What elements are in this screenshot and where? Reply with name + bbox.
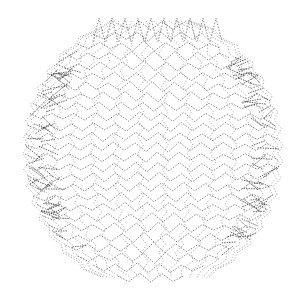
- zigzag-stroke: [46, 196, 56, 203]
- dotted-sphere-drawing: [0, 0, 306, 288]
- zigzag-stroke: [238, 61, 249, 66]
- zigzag-stroke: [258, 168, 276, 178]
- zigzag-stroke: [263, 166, 279, 178]
- zigzag-stroke: [59, 51, 78, 62]
- zigzag-stroke: [48, 222, 257, 233]
- zigzag-stroke: [93, 263, 203, 273]
- zigzag-stroke: [258, 106, 271, 113]
- zigzag-stroke: [42, 89, 50, 91]
- zigzag-stroke: [49, 208, 64, 214]
- zigzag-stroke: [27, 172, 269, 182]
- zigzag-stroke: [138, 21, 151, 278]
- zigzag-stroke: [242, 200, 260, 207]
- zigzag-stroke: [251, 118, 265, 127]
- zigzag-stroke: [241, 180, 262, 185]
- zigzag-stroke: [39, 146, 59, 155]
- zigzag-stroke: [249, 83, 257, 85]
- zigzag-stroke: [78, 41, 221, 51]
- zigzag-stroke: [222, 242, 236, 243]
- figure-canvas: [0, 0, 306, 288]
- zigzag-stroke: [30, 182, 272, 191]
- zigzag-stroke: [234, 76, 244, 80]
- zigzag-stroke: [42, 213, 262, 223]
- zigzag-stroke: [41, 139, 56, 141]
- zigzag-stroke: [30, 112, 272, 122]
- zigzag-stroke: [56, 61, 243, 71]
- zigzag-stroke: [210, 18, 222, 41]
- zigzag-stroke: [239, 199, 257, 209]
- zigzag-stroke: [66, 51, 231, 61]
- zigzag-stroke: [38, 167, 58, 169]
- zigzag-stroke: [175, 21, 237, 278]
- zigzag-stroke: [185, 21, 269, 278]
- zigzag-stroke: [244, 102, 266, 105]
- zigzag-stroke: [66, 243, 231, 254]
- zigzag-stroke: [25, 152, 278, 162]
- zigzag-stroke: [243, 104, 257, 108]
- zigzag-stroke: [118, 273, 184, 282]
- zigzag-stroke: [48, 72, 257, 82]
- zigzag-stroke: [33, 102, 264, 111]
- zigzag-stroke: [262, 97, 270, 101]
- zigzag-stroke: [52, 218, 70, 219]
- zigzag-stroke: [65, 68, 81, 72]
- zigzag-stroke: [33, 192, 264, 202]
- zigzag-stroke: [37, 202, 268, 211]
- zigzag-stroke: [26, 132, 279, 141]
- zigzag-stroke: [23, 21, 111, 278]
- zigzag-stroke: [197, 18, 209, 41]
- zigzag-stroke: [52, 231, 63, 239]
- zigzag-stroke: [248, 88, 263, 93]
- zigzag-stroke: [37, 91, 268, 102]
- zigzag-stroke: [252, 163, 262, 169]
- zigzag-stroke: [46, 177, 62, 186]
- zigzag-stroke: [31, 100, 46, 115]
- zigzag-stroke: [243, 199, 260, 212]
- zigzag-stroke: [56, 233, 243, 244]
- zigzag-stroke: [251, 141, 265, 146]
- zigzag-stroke: [234, 57, 243, 61]
- zigzag-stroke: [264, 108, 275, 118]
- zigzag-stroke: [46, 109, 55, 112]
- zigzag-stroke: [25, 142, 278, 152]
- zigzag-stroke: [27, 123, 269, 132]
- zigzag-stroke: [37, 180, 52, 195]
- zigzag-stroke: [49, 100, 67, 107]
- zigzag-stroke: [43, 92, 52, 95]
- zigzag-stroke: [39, 124, 53, 134]
- zigzag-stroke: [51, 21, 119, 278]
- zigzag-stroke: [78, 253, 221, 264]
- zigzag-stroke: [26, 162, 279, 172]
- zigzag-stroke: [42, 81, 262, 92]
- zigzag-stroke: [257, 201, 268, 208]
